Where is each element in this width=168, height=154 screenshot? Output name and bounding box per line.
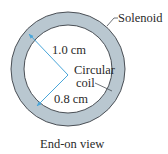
solenoid-leader-line [107, 18, 118, 26]
outer-radius-label: 1.0 cm [52, 43, 86, 57]
inner-radius-label: 0.8 cm [54, 92, 88, 106]
coil-label-line1: Circular [74, 63, 116, 77]
coil-label-line2: coil [76, 76, 95, 90]
solenoid-end-view-diagram: Solenoid 1.0 cm Circular coil 0.8 cm End… [0, 0, 168, 154]
diagram-canvas: Solenoid 1.0 cm Circular coil 0.8 cm End… [0, 0, 168, 154]
solenoid-label: Solenoid [118, 11, 163, 25]
caption: End-on view [40, 137, 104, 151]
